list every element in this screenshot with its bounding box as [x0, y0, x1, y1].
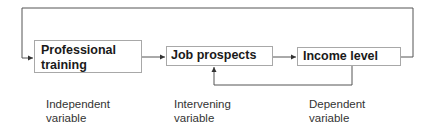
caption-independent-variable: Independent variable: [46, 97, 110, 125]
caption-line2: variable: [309, 111, 365, 125]
caption-line2: variable: [174, 111, 231, 125]
edge-income-to-job: [214, 65, 352, 85]
node-label: Job prospects: [171, 48, 256, 62]
caption-line1: Independent: [46, 97, 110, 111]
caption-line1: Intervening: [174, 97, 231, 111]
node-label: Income level: [303, 49, 378, 63]
node-professional-training: Professional training: [34, 40, 142, 73]
caption-line1: Dependent: [309, 97, 365, 111]
node-label-line2: training: [41, 58, 141, 73]
caption-line2: variable: [46, 111, 110, 125]
node-label-line1: Professional: [41, 43, 141, 58]
node-income-level: Income level: [297, 47, 401, 66]
node-job-prospects: Job prospects: [166, 46, 273, 66]
caption-intervening-variable: Intervening variable: [174, 97, 231, 125]
caption-dependent-variable: Dependent variable: [309, 97, 365, 125]
